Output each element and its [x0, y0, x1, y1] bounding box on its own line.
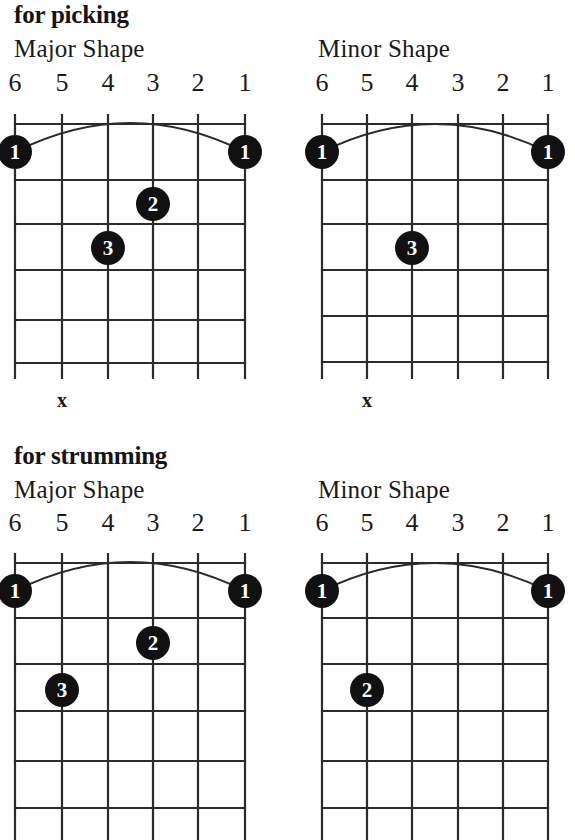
- barre-arc: [15, 562, 245, 591]
- string-number-4: 4: [406, 70, 419, 96]
- chord-diagram-picking-major: 6 5 4 3 2 1: [0, 70, 290, 420]
- shape-title-picking-major: Major Shape: [14, 36, 145, 61]
- string-number-4: 4: [102, 510, 115, 536]
- finger-dot-barre-string6[interactable]: 1: [305, 135, 339, 169]
- string-number-1: 1: [542, 70, 555, 96]
- string-number-2: 2: [497, 70, 510, 96]
- section-heading-picking: for picking: [14, 2, 129, 27]
- string-number-5: 5: [56, 70, 69, 96]
- string-number-6: 6: [316, 510, 329, 536]
- string-number-6: 6: [9, 70, 22, 96]
- finger-dot-2-string3[interactable]: 2: [136, 187, 170, 221]
- string-number-1: 1: [542, 510, 555, 536]
- string-number-3: 3: [147, 510, 160, 536]
- finger-dot-barre-string6[interactable]: 1: [305, 574, 339, 608]
- string-number-2: 2: [497, 510, 510, 536]
- mute-mark-string5: x: [57, 390, 67, 410]
- string-number-2: 2: [192, 70, 205, 96]
- barre-arc: [322, 563, 548, 591]
- string-number-row: 6 5 4 3 2 1: [305, 70, 575, 100]
- finger-dot-2-string5[interactable]: 2: [350, 673, 384, 707]
- finger-dot-barre-string1[interactable]: 1: [531, 574, 565, 608]
- finger-dot-barre-string1[interactable]: 1: [531, 135, 565, 169]
- finger-dot-3-string4[interactable]: 3: [91, 231, 125, 265]
- finger-dot-barre-string1[interactable]: 1: [228, 135, 262, 169]
- finger-dot-3-string5[interactable]: 3: [45, 673, 79, 707]
- string-number-3: 3: [147, 70, 160, 96]
- shape-title-strumming-major: Major Shape: [14, 477, 145, 502]
- barre-arc: [322, 124, 548, 152]
- string-number-5: 5: [361, 510, 374, 536]
- string-number-6: 6: [316, 70, 329, 96]
- finger-dot-3-string4[interactable]: 3: [395, 231, 429, 265]
- chord-diagram-strumming-major: 6 5 4 3 2 1: [0, 510, 290, 824]
- chord-diagram-picking-minor: 6 5 4 3 2 1: [305, 70, 575, 420]
- string-number-row: 6 5 4 3 2 1: [0, 510, 290, 540]
- barre-arc: [15, 123, 245, 152]
- string-number-6: 6: [9, 510, 22, 536]
- string-number-3: 3: [452, 70, 465, 96]
- mute-mark-string5: x: [362, 390, 372, 410]
- finger-dot-barre-string1[interactable]: 1: [228, 574, 262, 608]
- string-number-5: 5: [56, 510, 69, 536]
- string-number-1: 1: [239, 510, 252, 536]
- string-number-5: 5: [361, 70, 374, 96]
- string-number-row: 6 5 4 3 2 1: [305, 510, 575, 540]
- string-number-2: 2: [192, 510, 205, 536]
- string-number-4: 4: [406, 510, 419, 536]
- shape-title-picking-minor: Minor Shape: [318, 36, 450, 61]
- chord-diagram-strumming-minor: 6 5 4 3 2 1: [305, 510, 575, 824]
- string-number-3: 3: [452, 510, 465, 536]
- string-number-row: 6 5 4 3 2 1: [0, 70, 290, 100]
- finger-dot-2-string3[interactable]: 2: [136, 626, 170, 660]
- string-number-1: 1: [239, 70, 252, 96]
- shape-title-strumming-minor: Minor Shape: [318, 477, 450, 502]
- section-heading-strumming: for strumming: [14, 443, 167, 468]
- string-number-4: 4: [102, 70, 115, 96]
